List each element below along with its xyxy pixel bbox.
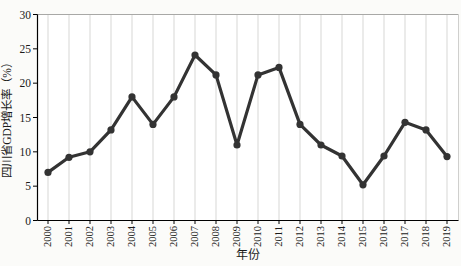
x-tick-label: 2000 [42,226,53,247]
x-tick-label: 2006 [168,226,179,247]
x-tick-label: 2004 [126,225,137,247]
data-point-marker [338,152,345,159]
data-point-marker [254,71,261,78]
y-tick-label: 20 [20,77,32,89]
x-tick-label: 2007 [189,226,200,247]
y-tick-label: 10 [20,146,32,158]
data-point-marker [149,121,156,128]
chart-canvas: 0510152025302000200120022003200420052006… [0,0,461,266]
data-point-marker [443,153,450,160]
y-tick-label: 25 [20,43,32,55]
data-point-marker [317,141,324,148]
data-point-marker [380,152,387,159]
y-tick-label: 30 [20,9,32,21]
plot-area [38,15,459,221]
y-tick-label: 15 [20,112,32,124]
x-tick-label: 2010 [252,226,263,247]
x-axis-title: 年份 [236,248,260,262]
x-tick-label: 2008 [210,226,221,247]
x-tick-label: 2001 [63,226,74,247]
x-tick-label: 2005 [147,226,158,247]
data-point-marker [296,121,303,128]
x-tick-label: 2002 [84,226,95,247]
x-tick-label: 2018 [420,226,431,247]
x-tick-label: 2003 [105,226,116,247]
x-tick-label: 2012 [294,226,305,247]
x-tick-label: 2011 [273,226,284,247]
x-tick-label: 2019 [441,226,452,247]
data-point-marker [212,71,219,78]
y-tick-label: 0 [25,215,31,227]
x-tick-label: 2013 [315,226,326,247]
data-point-marker [191,51,198,58]
data-point-marker [128,93,135,100]
sichuan-gdp-growth-line-chart: 0510152025302000200120022003200420052006… [0,0,461,266]
y-axis-title: 四川省GDP增长率（%） [0,57,13,178]
data-point-marker [233,141,240,148]
data-point-marker [44,169,51,176]
x-tick-label: 2009 [231,226,242,247]
x-tick-label: 2016 [378,226,389,247]
data-point-marker [65,154,72,161]
data-point-marker [275,64,282,71]
data-point-marker [170,93,177,100]
x-tick-label: 2014 [336,225,347,247]
data-point-marker [401,119,408,126]
x-tick-label: 2015 [357,226,368,247]
data-point-marker [359,181,366,188]
data-point-marker [422,126,429,133]
data-point-marker [107,126,114,133]
y-tick-label: 5 [25,180,31,192]
data-point-marker [86,148,93,155]
x-tick-label: 2017 [399,226,410,247]
